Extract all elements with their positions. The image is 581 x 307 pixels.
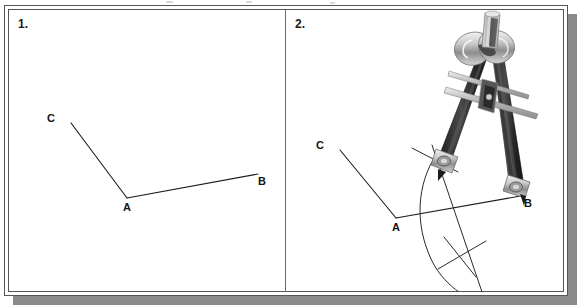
compass-right-leg [492, 43, 524, 189]
panel-2-drawing [286, 9, 564, 292]
compass-instrument [431, 11, 538, 206]
intersection-mark-lower [438, 241, 486, 269]
panel-1-label-a: A [123, 202, 131, 213]
compass-handle-knob [482, 11, 500, 49]
panel-2-label-c: C [316, 140, 324, 151]
panel-2-label-b: B [524, 198, 532, 209]
panel-1: 1. C A B [9, 9, 285, 292]
ray-a-to-b [127, 174, 258, 198]
panel-1-drawing [9, 9, 285, 292]
ray-a-to-b [396, 195, 526, 218]
scan-artifact [246, 1, 252, 3]
scan-artifact [166, 1, 173, 3]
panel-1-label-b: B [258, 176, 266, 187]
scan-artifact [330, 2, 335, 4]
panel-2-label-a: A [392, 222, 400, 233]
figure-root: 1. C A B 2. [0, 0, 581, 307]
panel-1-label-c: C [47, 113, 55, 124]
compass-pencil-holder [431, 149, 458, 181]
intersection-mark-lower-2 [444, 237, 476, 277]
panel-2: 2. [286, 9, 564, 292]
compass-pencil-tip [438, 169, 446, 181]
ray-a-to-c [340, 150, 396, 218]
ray-a-to-c [71, 123, 127, 198]
